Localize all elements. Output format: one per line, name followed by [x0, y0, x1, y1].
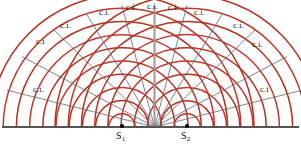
constructive-interference-label: c.i: [260, 85, 269, 94]
wave-interference-figure: c.i.c.ic.i.c.i.c.i.c.i.c.i.c.i.c.i.c.i.c…: [0, 0, 301, 150]
constructive-interference-label: c.i.: [252, 40, 263, 49]
wavefront-arc: [3, 8, 241, 127]
source-label-s1: S1: [116, 131, 125, 141]
source-label-subscript: 1: [122, 135, 126, 143]
source-point-s2: [185, 124, 189, 128]
constructive-interference-label: c.i.: [33, 85, 44, 94]
constructive-interference-label: c.i.: [147, 2, 158, 11]
source-label-text: S: [116, 130, 122, 141]
wavefront-arcs-source-2: [55, 0, 301, 127]
constructive-interference-label: c.i.: [233, 21, 244, 30]
interference-diagram-canvas: [0, 0, 301, 150]
constructive-interference-label: c.i.: [99, 8, 110, 17]
source-point-s1: [120, 124, 124, 128]
constructive-interference-label: c.i.: [194, 8, 205, 17]
constructive-interference-label: c.i.: [126, 3, 137, 12]
constructive-interference-label: c.i.: [60, 21, 71, 30]
constructive-interference-label: c.i.: [168, 3, 179, 12]
source-label-subscript: 2: [187, 135, 191, 143]
source-label-s2: S2: [181, 131, 190, 141]
wavefront-arcs-source-1: [0, 0, 254, 127]
constructive-interference-label: c.i: [36, 37, 45, 46]
source-label-text: S: [181, 130, 187, 141]
